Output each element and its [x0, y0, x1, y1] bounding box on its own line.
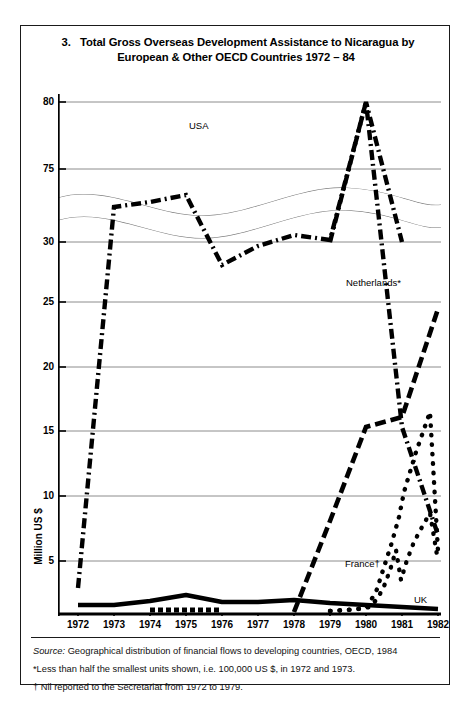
- footnote-divider: [31, 637, 440, 638]
- x-tick-1980: 1980: [346, 619, 386, 631]
- figure-title-block: 3. Total Gross Overseas Development Assi…: [21, 35, 451, 65]
- y-tick-75: 75: [28, 164, 54, 174]
- x-tick-1975: 1975: [166, 619, 206, 631]
- chart-svg: [58, 80, 441, 616]
- x-tick-1978: 1978: [274, 619, 314, 631]
- footnotes-block: Source: Geographical distribution of fin…: [33, 642, 443, 696]
- x-tick-1972: 1972: [58, 619, 98, 631]
- x-tick-1973: 1973: [94, 619, 134, 631]
- figure-number: 3.: [62, 36, 71, 48]
- footnote-asterisk: *Less than half the smallest units shown…: [33, 660, 443, 678]
- x-tick-1977: 1977: [238, 619, 278, 631]
- series-label-usa: USA: [189, 120, 209, 131]
- series-line-usa-upper: [330, 102, 402, 242]
- series-label-uk: UK: [414, 594, 427, 605]
- plot-area: USA Netherlands* France† UK: [58, 80, 441, 616]
- series-line-uk: [78, 595, 438, 609]
- figure-title-text-1: Total Gross Overseas Development Assista…: [80, 36, 414, 48]
- x-axis-tick-labels: 1972 1973 1974 1975 1976 1977 1978 1979 …: [58, 619, 441, 635]
- x-tick-1974: 1974: [130, 619, 170, 631]
- y-tick-30: 30: [28, 237, 54, 247]
- series-label-france: France†: [345, 558, 380, 569]
- x-tick-1982: 1982: [418, 619, 458, 631]
- footnote-dagger: † Nil reported to the Secretariat from 1…: [33, 678, 443, 696]
- footnote-source: Source: Geographical distribution of fin…: [33, 642, 443, 660]
- series-line-france: [330, 412, 438, 611]
- y-axis-title: Million US $: [33, 487, 44, 587]
- x-tick-1981: 1981: [382, 619, 422, 631]
- figure-page: 3. Total Gross Overseas Development Assi…: [0, 0, 471, 706]
- footnote-source-text: Geographical distribution of financial f…: [68, 646, 398, 656]
- figure-title-line-1: 3. Total Gross Overseas Development Assi…: [21, 35, 451, 50]
- y-tick-25: 25: [28, 297, 54, 307]
- y-tick-20: 20: [28, 362, 54, 372]
- series-line-usa: [78, 102, 438, 588]
- figure-frame: 3. Total Gross Overseas Development Assi…: [20, 25, 450, 685]
- x-tick-1979: 1979: [310, 619, 350, 631]
- y-tick-80: 80: [28, 97, 54, 107]
- x-tick-1976: 1976: [202, 619, 242, 631]
- figure-title-line-2: European & Other OECD Countries 1972 – 8…: [21, 50, 451, 65]
- footnote-source-label: Source:: [33, 646, 65, 656]
- series-label-netherlands: Netherlands*: [346, 277, 401, 288]
- y-tick-15: 15: [28, 426, 54, 436]
